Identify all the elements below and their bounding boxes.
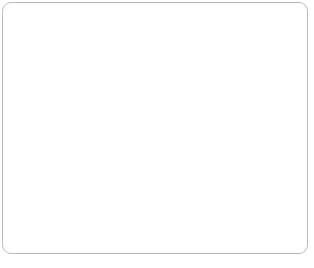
figure-card-border [2, 2, 308, 254]
figure-container: 0 10 20 Blood alcohol concentration (mmo… [0, 0, 314, 268]
